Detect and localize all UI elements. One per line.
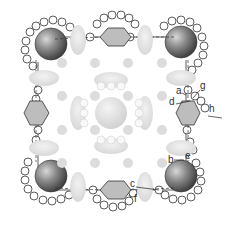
label-f: f	[134, 193, 137, 204]
label-a: a	[176, 85, 182, 96]
label-b: b	[168, 154, 174, 165]
label-d: d	[169, 96, 175, 107]
central-sphere	[95, 97, 127, 129]
label-g: g	[200, 80, 206, 91]
label-c: c	[130, 178, 135, 189]
label-e: e	[185, 150, 191, 161]
crystal-structure-diagram: a b c d e f g h	[0, 0, 237, 225]
label-h: h	[209, 103, 215, 114]
diagram-canvas: a b c d e f g h	[0, 0, 237, 225]
